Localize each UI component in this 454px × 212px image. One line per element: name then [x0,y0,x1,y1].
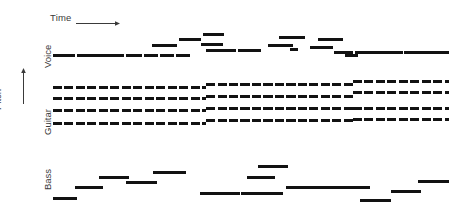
bass-note [53,197,77,200]
bass-note [247,176,275,179]
bass-note [418,180,449,183]
voice-note [310,46,333,49]
voice-note [206,49,236,52]
bass-note [153,171,186,174]
voice-note [404,51,449,54]
guitar-note-line [53,122,206,125]
voice-note [77,54,124,57]
voice-note [290,48,298,51]
bass-note [241,192,283,195]
bass-note [75,186,103,189]
guitar-note-line [53,109,206,112]
bass-note [99,176,129,179]
bass-note [200,192,240,195]
guitar-note-line [206,83,353,86]
voice-note [201,43,223,46]
guitar-note-line [353,80,449,83]
guitar-note-line [353,118,449,121]
track-label-voice: Voice [42,45,53,68]
pitch-axis: Pitch [0,70,26,140]
track-label-bass: Bass [42,169,53,190]
voice-note [53,54,75,57]
voice-note [179,38,201,41]
bass-note [258,165,288,168]
guitar-note-line [53,97,206,100]
guitar-note-line [353,91,449,94]
guitar-note-line [206,95,353,98]
pitch-arrow-up-icon [20,68,27,104]
guitar-note-line [353,107,449,110]
voice-note [144,54,158,57]
voice-note [152,44,177,47]
voice-note [238,49,261,52]
voice-note [355,51,403,54]
guitar-note-line [206,107,353,110]
guitar-note-line [206,119,353,122]
voice-note [318,38,343,41]
voice-note [126,54,142,57]
bass-note [126,181,157,184]
guitar-note-line [53,86,206,89]
time-arrow-right-icon [76,20,120,27]
voice-note [176,54,190,57]
voice-note [268,44,293,47]
bass-note [360,199,391,202]
time-axis-label: Time [50,12,72,23]
piano-roll-figure: Time Pitch Voice Guitar Bass [0,0,454,212]
bass-note [391,190,421,193]
voice-note [160,54,174,57]
bass-note [330,186,370,189]
voice-note [279,36,305,39]
voice-note [203,33,224,36]
voice-note [345,54,358,57]
pitch-axis-label: Pitch [0,89,3,110]
track-label-guitar: Guitar [42,109,53,135]
